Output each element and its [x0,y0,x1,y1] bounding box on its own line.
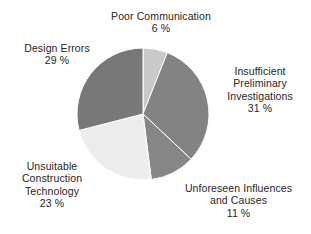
slice-value-unforeseen: 11 % [168,207,309,219]
slice-label-poor-communication: Poor Communication 6 % [99,10,223,35]
slice-value-design-errors: 29 % [8,54,106,66]
slice-label-poor-communication-line1: Poor Communication [99,10,223,22]
slice-label-unsuitable-line1: Unsuitable [4,160,100,172]
slice-label-unsuitable-line3: Technology [4,185,100,197]
slice-label-insufficient-line1: Insufficient [211,65,309,77]
slice-label-design-errors: Design Errors 29 % [8,42,106,67]
slice-value-insufficient: 31 % [211,102,309,114]
slice-label-insufficient-preliminary-investigations: Insufficient Preliminary Investigations … [211,65,309,115]
slice-label-insufficient-line3: Investigations [211,90,309,102]
slice-label-unforeseen-line1: Unforeseen Influences [168,182,309,194]
slice-label-insufficient-line2: Preliminary [211,77,309,89]
slice-label-unsuitable-construction-technology: Unsuitable Construction Technology 23 % [4,160,100,210]
slice-label-unforeseen-line2: and Causes [168,194,309,206]
slice-value-unsuitable: 23 % [4,197,100,209]
slice-value-poor-communication: 6 % [99,22,223,34]
pie-chart-figure: Poor Communication 6 % Design Errors 29 … [0,0,311,234]
slice-label-design-errors-line1: Design Errors [8,42,106,54]
slice-label-unforeseen-influences-and-causes: Unforeseen Influences and Causes 11 % [168,182,309,219]
slice-label-unsuitable-line2: Construction [4,172,100,184]
